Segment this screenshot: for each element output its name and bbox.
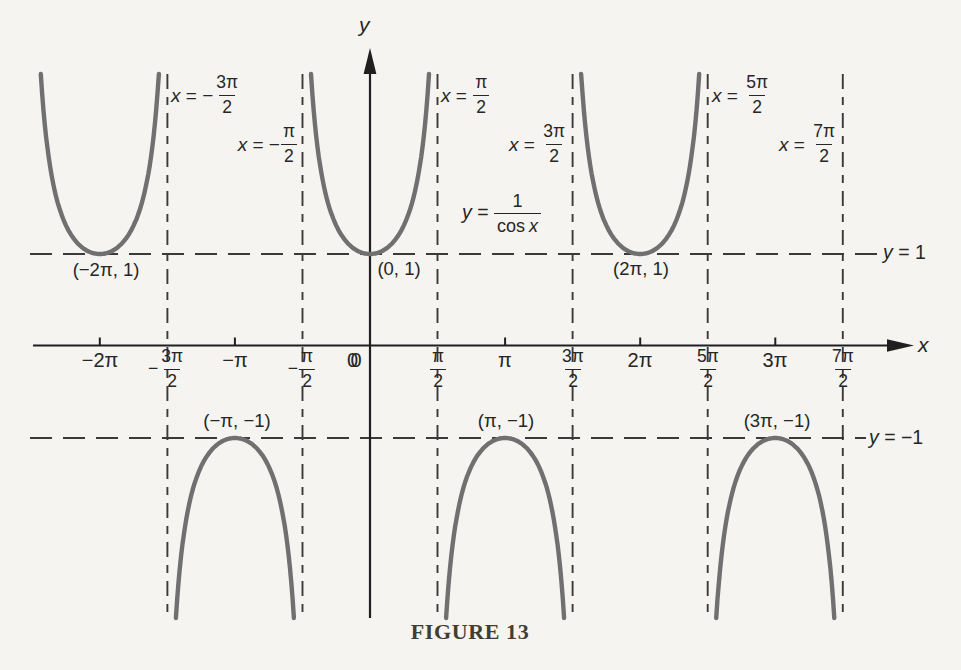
asymptote-label-fraction: 3π2 <box>213 74 241 116</box>
guide-var: y <box>883 243 893 263</box>
guide-rest: = −1 <box>879 428 923 448</box>
key-point-label: (0, 1) <box>377 260 420 279</box>
function-var: y <box>462 203 472 223</box>
secant-curve-branch <box>716 438 834 618</box>
asymptote-label-fraction: 5π2 <box>743 74 771 116</box>
fraction-numerator: π <box>280 123 298 144</box>
asymptote-label: x = −3π2 <box>171 72 241 118</box>
fraction-denominator: 2 <box>835 369 851 391</box>
fraction-numerator: 5π <box>743 74 771 95</box>
x-tick-label: π2 <box>429 348 447 390</box>
x-tick-label: 3π <box>763 350 788 370</box>
fraction-numerator: 5π <box>694 348 722 369</box>
asymptote-label-fraction: π2 <box>280 123 298 165</box>
x-tick-label: −π2 <box>288 348 316 390</box>
asymptote-label: x = −π2 <box>238 121 298 167</box>
fraction-denominator: 2 <box>164 369 180 391</box>
tick-minus-sign: − <box>148 360 158 378</box>
key-point-label: (2π, 1) <box>613 260 669 279</box>
key-point-label: (−π, −1) <box>203 412 270 431</box>
tick-fraction: 3π2 <box>158 348 186 390</box>
function-den-fn: cos <box>497 216 525 236</box>
asymptote-label-relation: = <box>722 86 744 105</box>
guide-rest: = 1 <box>893 243 926 263</box>
x-tick-label: −π <box>222 350 247 370</box>
guide-label-y-minus1: y = −1 <box>869 426 923 450</box>
fraction-numerator: 3π <box>213 74 241 95</box>
asymptote-label: x = 3π2 <box>509 121 568 167</box>
x-tick-label: 0 <box>350 350 361 370</box>
key-point-label: (π, −1) <box>478 412 534 431</box>
tick-fraction: 3π2 <box>559 348 587 390</box>
asymptote-label-var: x <box>441 86 451 105</box>
fraction-denominator: 2 <box>299 369 315 391</box>
asymptote-label-fraction: 3π2 <box>540 123 568 165</box>
secant-curve-branch <box>446 438 564 618</box>
asymptote-label-var: x <box>238 135 248 154</box>
asymptote-label-relation: = − <box>247 135 280 154</box>
x-axis-label: x <box>918 334 929 355</box>
asymptote-label-fraction: 7π2 <box>810 123 838 165</box>
x-tick-label: π <box>498 350 512 370</box>
x-tick-label: −2π <box>82 350 119 370</box>
x-tick-label: 2π <box>628 350 653 370</box>
fraction-denominator: 2 <box>473 95 489 117</box>
tick-fraction: π2 <box>429 348 447 390</box>
fraction-denominator: 2 <box>565 369 581 391</box>
secant-curve-branch <box>176 438 294 618</box>
asymptote-label-relation: = <box>451 86 473 105</box>
tick-fraction: π2 <box>298 348 316 390</box>
asymptote-label: x = π2 <box>441 72 490 118</box>
asymptote-label-relation: = − <box>181 86 214 105</box>
function-numerator: 1 <box>509 192 525 213</box>
x-axis-arrowhead <box>887 339 914 352</box>
fraction-denominator: 2 <box>546 144 562 166</box>
function-rel: = <box>472 203 494 223</box>
asymptote-label: x = 7π2 <box>779 121 838 167</box>
guide-label-y1: y = 1 <box>883 241 926 265</box>
asymptote-label-var: x <box>509 135 519 154</box>
secant-curve-branch <box>581 74 699 254</box>
function-label: y = 1cosx <box>462 187 541 239</box>
asymptote-label-fraction: π2 <box>472 74 490 116</box>
fraction-denominator: 2 <box>430 369 446 391</box>
tick-fraction: 7π2 <box>829 348 857 390</box>
guide-var: y <box>869 428 879 448</box>
figure-caption: FIGURE 13 <box>411 621 529 643</box>
figure-13-secant-plot: y x 0 y = 1 y = −1 y = 1cosx FIGURE 13 x… <box>0 0 961 670</box>
function-den-var: x <box>529 216 538 236</box>
asymptote-label-var: x <box>712 86 722 105</box>
function-denominator: cosx <box>494 213 541 235</box>
fraction-denominator: 2 <box>700 369 716 391</box>
fraction-denominator: 2 <box>219 95 235 117</box>
asymptote-label-relation: = <box>519 135 541 154</box>
y-axis-label: y <box>359 14 370 35</box>
key-point-label: (−2π, 1) <box>73 261 140 280</box>
fraction-numerator: 7π <box>829 348 857 369</box>
key-point-label: (3π, −1) <box>744 412 811 431</box>
x-tick-label: 5π2 <box>694 348 722 390</box>
fraction-numerator: 3π <box>540 123 568 144</box>
asymptote-label-var: x <box>171 86 181 105</box>
y-axis-arrowhead <box>364 48 377 74</box>
tick-minus-sign: − <box>288 360 298 378</box>
x-tick-label: 7π2 <box>829 348 857 390</box>
x-tick-label: 3π2 <box>559 348 587 390</box>
x-tick-label: −3π2 <box>148 348 186 390</box>
asymptote-label: x = 5π2 <box>712 72 771 118</box>
fraction-numerator: 7π <box>810 123 838 144</box>
fraction-numerator: π <box>429 348 447 369</box>
fraction-numerator: π <box>298 348 316 369</box>
asymptote-label-var: x <box>779 135 789 154</box>
fraction-numerator: π <box>472 74 490 95</box>
fraction-numerator: 3π <box>158 348 186 369</box>
fraction-denominator: 2 <box>749 95 765 117</box>
asymptote-label-relation: = <box>789 135 811 154</box>
secant-curve-branch <box>41 74 159 254</box>
fraction-denominator: 2 <box>816 144 832 166</box>
fraction-denominator: 2 <box>281 144 297 166</box>
function-fraction: 1cosx <box>494 192 541 235</box>
fraction-numerator: 3π <box>559 348 587 369</box>
tick-fraction: 5π2 <box>694 348 722 390</box>
